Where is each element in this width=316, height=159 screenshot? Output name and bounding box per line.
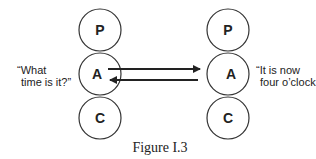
right-ego-states: P A C [207, 9, 249, 139]
right-child-label: C [223, 110, 233, 126]
left-quote-line1: “What [17, 64, 46, 76]
left-parent-label: P [95, 22, 104, 38]
left-quote-line2: time is it?” [21, 76, 71, 88]
figure-caption: Figure I.3 [132, 140, 187, 155]
left-adult-label: A [92, 66, 102, 82]
transaction-diagram: P A C P A C “What time is it?” “It is no… [0, 0, 316, 159]
right-quote-line1: “It is now [256, 64, 300, 76]
right-parent-label: P [223, 22, 232, 38]
left-ego-states: P A C [79, 9, 121, 139]
right-quote-line2: four o’clock.” [260, 76, 316, 88]
right-adult-label: A [226, 66, 236, 82]
left-child-label: C [95, 110, 105, 126]
